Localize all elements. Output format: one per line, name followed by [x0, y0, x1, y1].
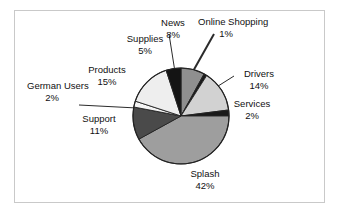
chart-screenshot: News 8% Online Shopping 1% Drivers 14% S… — [0, 0, 342, 216]
pie-label-online-shopping-value: 1% — [198, 28, 254, 40]
pie-label-splash-value: 42% — [182, 180, 228, 192]
pie-label-products-value: 15% — [82, 76, 132, 88]
pie-label-services-text: Services — [228, 98, 276, 110]
pie-label-services: Services 2% — [228, 98, 276, 121]
pie-label-online-shopping: Online Shopping 1% — [198, 16, 254, 39]
pie-label-online-shopping-text: Online Shopping — [198, 16, 254, 28]
pie-label-supplies-value: 5% — [121, 45, 169, 57]
pie-label-supplies: Supplies 5% — [121, 33, 169, 56]
pie-label-drivers: Drivers 14% — [235, 68, 283, 91]
leader-line-online-shopping — [192, 34, 214, 73]
pie-label-news-text: News — [151, 17, 195, 29]
pie-label-german-users: German Users 2% — [27, 80, 77, 103]
leader-line-german-users — [79, 105, 137, 108]
pie-label-products: Products 15% — [82, 64, 132, 87]
pie-label-drivers-value: 14% — [235, 80, 283, 92]
pie-label-support-value: 11% — [75, 125, 123, 137]
pie-label-german-users-text: German Users — [27, 80, 77, 92]
pie-label-products-text: Products — [82, 64, 132, 76]
pie-label-support: Support 11% — [75, 113, 123, 136]
pie-label-splash-text: Splash — [182, 168, 228, 180]
pie-label-drivers-text: Drivers — [235, 68, 283, 80]
pie-label-support-text: Support — [75, 113, 123, 125]
pie-chart: News 8% Online Shopping 1% Drivers 14% S… — [0, 0, 342, 216]
pie-label-splash: Splash 42% — [182, 168, 228, 191]
pie-label-supplies-text: Supplies — [121, 33, 169, 45]
pie-label-services-value: 2% — [228, 110, 276, 122]
pie-label-german-users-value: 2% — [27, 92, 77, 104]
